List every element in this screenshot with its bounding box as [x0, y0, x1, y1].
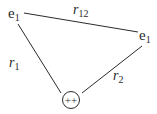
r2-subscript: 2 [118, 74, 123, 85]
electron-2-subscript: 1 [146, 34, 151, 45]
svg-text:e1: e1 [139, 27, 151, 45]
r12-subscript: 12 [78, 8, 88, 19]
electron-1-subscript: 1 [15, 12, 20, 23]
svg-text:r1: r1 [9, 55, 19, 72]
nucleus-node: ++ [63, 92, 80, 109]
edge-r2 [82, 46, 142, 93]
svg-text:r12: r12 [73, 2, 88, 19]
electron-2-node: e1 [139, 27, 151, 45]
electron-1-node: e1 [8, 5, 20, 23]
nucleus-charge-label: ++ [65, 94, 77, 106]
edge-r1 [18, 24, 61, 93]
helium-atom-diagram: ++ e1 e1 r12 r1 r2 [0, 0, 157, 114]
svg-text:e1: e1 [8, 5, 20, 23]
svg-text:r2: r2 [113, 68, 123, 85]
r1-subscript: 1 [14, 61, 19, 72]
